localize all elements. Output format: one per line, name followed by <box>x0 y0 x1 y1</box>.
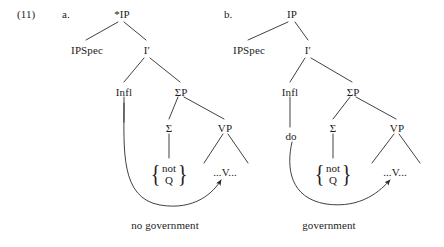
tree-a-set-notation: { not Q } <box>150 161 187 187</box>
branch-a-ip-ibar <box>124 22 146 40</box>
branch-b-ibar-sigmap <box>311 58 352 82</box>
tree-a-letter: a. <box>62 8 70 20</box>
figure-canvas: (11) a. *IP IPSpec I′ Infl ΣP Σ VP ...V.… <box>0 0 444 247</box>
tree-a-set-item-0: not <box>162 162 176 175</box>
tree-a-brace-right: } <box>177 161 187 187</box>
branch-a-vp-triangle-left <box>204 134 223 163</box>
branch-a-vp-triangle-right <box>228 134 248 163</box>
branch-b-sigmap-vp <box>356 97 396 119</box>
tree-b-node-v-terminal: ...V... <box>383 166 407 178</box>
tree-a-node-i-bar: I′ <box>144 44 150 56</box>
tree-a-caption: no government <box>131 219 199 231</box>
branch-a-ibar-infl <box>124 58 144 82</box>
branch-a-ip-ipspec <box>86 22 118 40</box>
branch-a-sigmap-sigma <box>169 97 178 119</box>
tree-b-brace-right: } <box>341 161 351 187</box>
tree-a-node-sigmap: ΣP <box>175 86 188 98</box>
tree-a-set-items: not Q <box>161 161 177 187</box>
tree-b-set-item-1: Q <box>329 174 337 187</box>
tree-a-node-vp: VP <box>218 122 232 134</box>
tree-b-brace-left: { <box>315 161 325 187</box>
branch-b-ibar-infl <box>290 58 305 82</box>
tree-b-set-items: not Q <box>325 161 341 187</box>
branch-b-ip-ibar <box>295 22 308 40</box>
tree-b-node-i-bar: I′ <box>305 44 311 56</box>
tree-b-infl-head-do: do <box>285 130 296 142</box>
tree-b-node-infl: Infl <box>282 86 298 98</box>
branch-b-ip-ipspec <box>248 22 288 40</box>
branch-b-vp-triangle-left <box>372 134 394 163</box>
tree-b-caption: government <box>302 219 356 231</box>
tree-a-set-item-1: Q <box>165 174 173 187</box>
movement-arrow-a <box>124 103 221 206</box>
example-number: (11) <box>17 8 35 20</box>
tree-a-node-root: *IP <box>114 8 130 20</box>
branch-b-sigmap-sigma <box>333 97 350 119</box>
tree-a-node-sigma: Σ <box>166 122 173 134</box>
tree-b-set-item-0: not <box>326 162 340 175</box>
tree-a-brace-left: { <box>151 161 161 187</box>
tree-a-node-infl: Infl <box>116 86 132 98</box>
branch-a-ibar-sigmap <box>150 58 180 82</box>
tree-b-set-notation: { not Q } <box>314 161 351 187</box>
tree-a-node-ipspec: IPSpec <box>71 44 103 56</box>
tree-b-node-ipspec: IPSpec <box>233 44 265 56</box>
tree-b-node-sigmap: ΣP <box>347 86 360 98</box>
tree-b-node-sigma: Σ <box>330 122 337 134</box>
tree-b-node-root: IP <box>287 8 297 20</box>
tree-b-letter: b. <box>224 8 232 20</box>
tree-a-node-v-terminal: ...V... <box>213 166 237 178</box>
branch-a-sigmap-vp <box>184 97 224 119</box>
branch-b-vp-triangle-right <box>399 134 420 163</box>
tree-b-node-vp: VP <box>390 122 404 134</box>
